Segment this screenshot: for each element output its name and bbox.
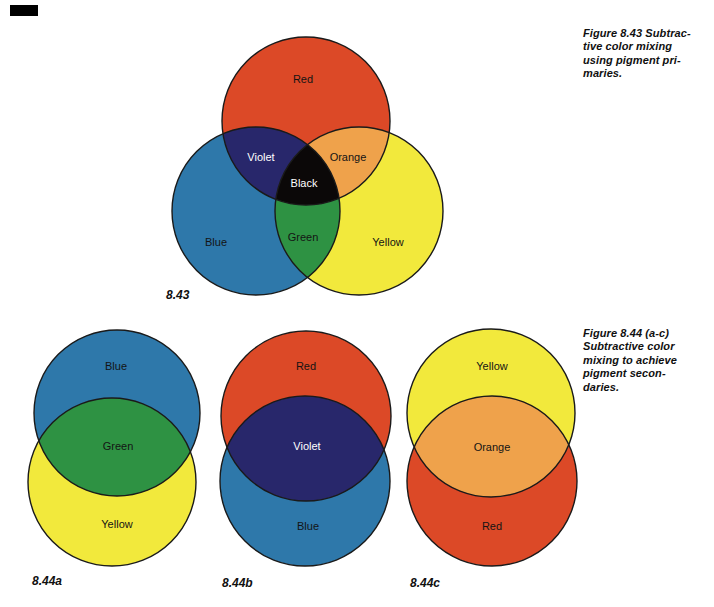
label-violet: Violet — [247, 151, 274, 163]
caption-figure-8-43: Figure 8.43 Subtrac- tive color mixing u… — [583, 27, 714, 81]
venn-diagram-8-44c: Yellow Orange Red — [407, 329, 577, 566]
label-red: Red — [482, 520, 502, 532]
caption-line: mixing to achieve — [583, 354, 714, 367]
caption-line: using pigment pri- — [583, 54, 714, 67]
label-yellow: Yellow — [476, 360, 507, 372]
label-blue: Blue — [205, 236, 227, 248]
caption-line: daries. — [583, 381, 714, 394]
label-orange: Orange — [474, 441, 511, 453]
venn-diagram-8-43: Red Violet Orange Black Green Blue Yello… — [172, 37, 443, 295]
label-green: Green — [103, 440, 134, 452]
label-orange: Orange — [330, 151, 367, 163]
label-red: Red — [293, 73, 313, 85]
label-blue: Blue — [297, 520, 319, 532]
caption-figure-8-44: Figure 8.44 (a-c) Subtractive color mixi… — [583, 327, 714, 394]
figure-number-8-44a: 8.44a — [32, 574, 62, 588]
figure-number-8-44b: 8.44b — [222, 576, 253, 590]
label-yellow: Yellow — [101, 518, 132, 530]
color-mixing-diagrams: Red Violet Orange Black Green Blue Yello… — [0, 0, 714, 607]
print-registration-mark — [10, 5, 38, 16]
label-green: Green — [288, 231, 319, 243]
caption-line: Figure 8.43 Subtrac- — [583, 27, 714, 40]
figure-number-8-43: 8.43 — [166, 288, 189, 302]
figure-number-8-44c: 8.44c — [410, 576, 440, 590]
caption-line: Figure 8.44 (a-c) — [583, 327, 714, 340]
label-yellow: Yellow — [372, 236, 403, 248]
caption-line: Subtractive color — [583, 340, 714, 353]
label-red: Red — [296, 360, 316, 372]
venn-diagram-8-44a: Blue Green Yellow — [28, 330, 200, 566]
label-black: Black — [291, 177, 318, 189]
caption-line: tive color mixing — [583, 40, 714, 53]
venn-diagram-8-44b: Red Violet Blue — [220, 331, 391, 566]
textbook-figure-page: Red Violet Orange Black Green Blue Yello… — [0, 0, 714, 607]
caption-line: pigment secon- — [583, 367, 714, 380]
label-blue: Blue — [105, 360, 127, 372]
caption-line: maries. — [583, 67, 714, 80]
label-violet: Violet — [293, 440, 320, 452]
